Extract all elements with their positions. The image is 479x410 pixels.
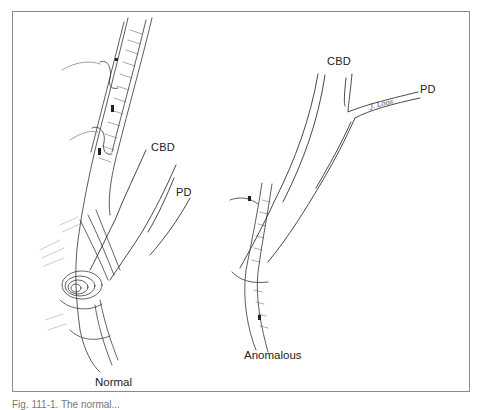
anomalous-panel-title: Anomalous [244, 349, 302, 361]
normal-duodenal-wall [62, 18, 152, 372]
anomalous-pd-label: PD [420, 83, 436, 95]
sphincter-of-oddi [60, 210, 120, 365]
anomalous-duodenal-wall [230, 183, 272, 352]
anomalous-wall-hatching [252, 200, 270, 328]
normal-panel-title: Normal [95, 376, 132, 388]
normal-cbd-label: CBD [151, 141, 175, 153]
figure-caption: Fig. 111-1. The normal... [12, 399, 120, 410]
normal-pd-label: PD [176, 186, 192, 198]
normal-ducts [90, 150, 190, 280]
normal-shading [40, 217, 80, 330]
anomalous-cbd-label: CBD [327, 55, 351, 67]
